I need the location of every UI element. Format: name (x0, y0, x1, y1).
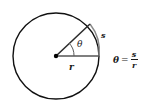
angle-theta-arc (69, 43, 74, 56)
center-point-dot (54, 54, 58, 58)
equation-fraction: s r (131, 50, 138, 69)
circle-arc-figure: s r θ θ = s r (0, 0, 150, 111)
equation-equals-sign: = (121, 55, 129, 65)
theta-equals-s-over-r-equation: θ = s r (113, 50, 138, 69)
equation-numerator: s (131, 50, 138, 58)
equation-denominator: r (131, 61, 137, 69)
radius-label: r (69, 63, 74, 72)
angle-theta-label: θ (77, 40, 82, 49)
arc-s-highlight (90, 24, 99, 56)
radius-angled-line (56, 24, 90, 56)
equation-theta-symbol: θ (113, 55, 119, 65)
arc-length-label: s (101, 31, 106, 39)
